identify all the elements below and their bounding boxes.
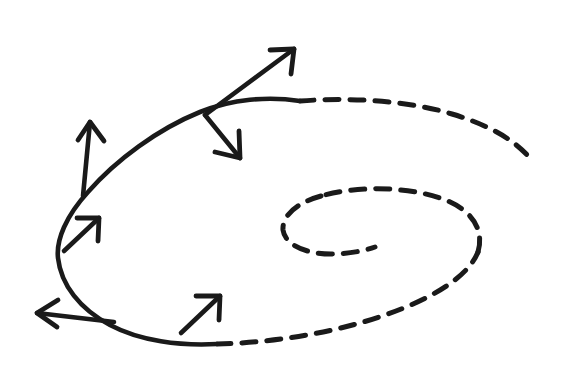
figure-root — [0, 0, 562, 376]
spiral-diagram — [0, 0, 562, 376]
